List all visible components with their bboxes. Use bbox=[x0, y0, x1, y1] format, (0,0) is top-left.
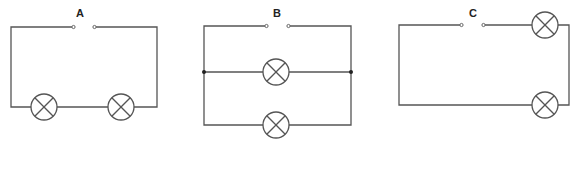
circuit-a: A bbox=[11, 7, 157, 120]
circuit-b: B bbox=[202, 7, 353, 138]
lamp-icon bbox=[263, 59, 289, 85]
circuit-a-label: A bbox=[76, 7, 84, 19]
switch-terminal bbox=[72, 25, 75, 28]
lamp-icon bbox=[108, 94, 134, 120]
lamp-icon bbox=[263, 112, 289, 138]
switch-terminal bbox=[93, 25, 96, 28]
lamp-icon bbox=[532, 92, 558, 118]
junction-node bbox=[202, 70, 206, 74]
lamp-icon bbox=[532, 12, 558, 38]
junction-node bbox=[349, 70, 353, 74]
switch-terminal bbox=[460, 23, 463, 26]
lamp-icon bbox=[31, 94, 57, 120]
circuit-c-label: C bbox=[469, 7, 477, 19]
circuit-c: C bbox=[399, 7, 569, 118]
switch-terminal bbox=[482, 23, 485, 26]
circuit-diagrams: A B C bbox=[0, 0, 580, 170]
circuit-b-label: B bbox=[273, 7, 281, 19]
switch-terminal bbox=[287, 24, 290, 27]
switch-terminal bbox=[265, 24, 268, 27]
